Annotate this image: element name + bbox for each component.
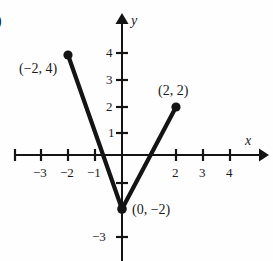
y-tick-label-4: 4	[106, 46, 113, 59]
x-tick-label-2: 2	[172, 166, 179, 179]
y-tick-label-2: 2	[106, 100, 113, 113]
graph-figure: ) x y	[0, 0, 273, 261]
y-axis-group	[116, 13, 129, 261]
y-tick-label--3: −3	[92, 230, 106, 243]
x-tick-label-4: 4	[226, 166, 233, 179]
x-axis-label: x	[245, 134, 251, 148]
y-tick-label-1: 1	[108, 126, 115, 139]
x-axis-arrowhead	[259, 149, 269, 162]
point-label-left-endpoint: (−2, 4)	[19, 62, 57, 76]
y-axis-label: y	[131, 14, 137, 28]
data-point-right-endpoint	[171, 102, 180, 111]
coordinate-plane	[0, 0, 273, 261]
x-tick-label--2: −2	[60, 166, 74, 179]
point-label-vertex: (0, −2)	[132, 203, 170, 217]
y-tick-label-3: 3	[106, 73, 113, 86]
x-tick-label--1: −1	[87, 166, 101, 179]
x-tick-label-3: 3	[199, 166, 206, 179]
x-tick-label--3: −3	[33, 166, 47, 179]
y-axis-arrowhead	[116, 13, 129, 24]
data-point-left-endpoint	[63, 50, 72, 59]
data-point-vertex	[117, 204, 127, 214]
x-axis-group	[15, 149, 269, 162]
point-label-right-endpoint: (2, 2)	[158, 84, 188, 98]
